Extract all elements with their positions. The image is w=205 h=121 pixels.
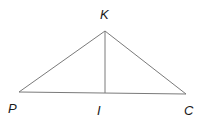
point-label-i: I [97, 103, 101, 118]
segment-PK [19, 31, 105, 92]
vertex-label-c: C [184, 103, 194, 118]
segments [19, 31, 186, 94]
vertex-label-k: K [100, 7, 110, 22]
segment-KC [105, 31, 186, 94]
triangle-diagram: K P I C [0, 0, 205, 121]
segment-PC [19, 92, 186, 94]
vertex-label-p: P [8, 101, 17, 116]
vertex-labels: K P I C [8, 7, 194, 118]
